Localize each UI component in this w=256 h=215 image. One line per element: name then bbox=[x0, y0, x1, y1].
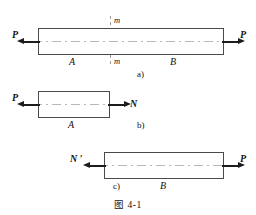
force-label-p-right-c: P bbox=[240, 154, 246, 164]
section-label-m-top: m bbox=[114, 16, 120, 25]
section-cut-line-bottom bbox=[110, 55, 111, 67]
force-label-n-prime-left-c: N ′ bbox=[70, 154, 83, 164]
force-arrow-head-n-prime-left-c bbox=[83, 162, 90, 168]
center-axis-b bbox=[33, 104, 115, 105]
force-arrow-shaft-p-right-c bbox=[222, 165, 239, 167]
force-arrow-shaft-p-left-a bbox=[23, 41, 40, 43]
figure-4-1: m P P A B m a) P N A bbox=[0, 0, 256, 215]
region-label-a-in-b: A bbox=[68, 120, 74, 130]
region-label-b-in-a: B bbox=[170, 57, 176, 67]
figure-caption: 图 4-1 bbox=[0, 197, 256, 211]
center-axis-a bbox=[33, 41, 229, 42]
force-label-p-right-a: P bbox=[240, 30, 246, 40]
force-label-n-right-b: N bbox=[130, 99, 137, 109]
force-arrow-shaft-p-left-b bbox=[23, 104, 40, 106]
force-arrow-shaft-n-right-b bbox=[108, 104, 125, 106]
part-label-a: a) bbox=[137, 70, 144, 79]
part-label-c: c) bbox=[113, 182, 120, 191]
section-label-m-bottom: m bbox=[114, 57, 120, 66]
force-label-p-left-b: P bbox=[12, 93, 18, 103]
center-axis-c bbox=[99, 165, 229, 166]
force-arrow-shaft-p-right-a bbox=[222, 41, 239, 43]
region-label-b-in-c: B bbox=[160, 181, 166, 191]
force-arrow-shaft-n-prime-left-c bbox=[89, 165, 106, 167]
part-label-b: b) bbox=[137, 121, 145, 130]
force-label-p-left-a: P bbox=[12, 30, 18, 40]
section-cut-line-top bbox=[110, 16, 111, 28]
region-label-a-in-a: A bbox=[69, 57, 75, 67]
